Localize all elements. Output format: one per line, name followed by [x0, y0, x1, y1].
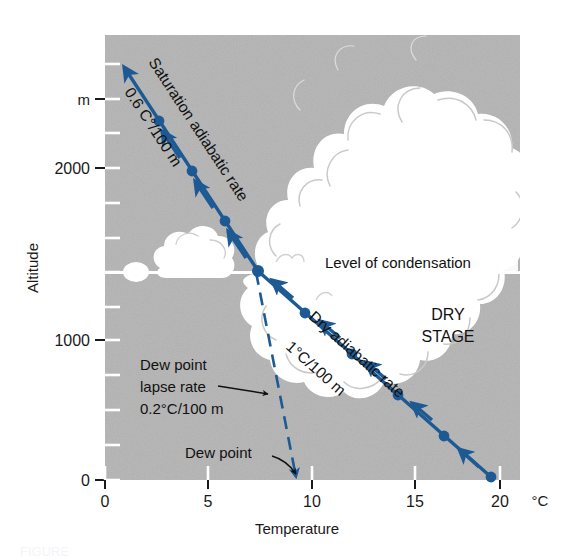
x-tick-label-5: 5: [204, 493, 213, 510]
data-point: [486, 472, 497, 483]
x-tick-label-0: 0: [101, 493, 110, 510]
dew-point-lapse-rate-label-line2: lapse rate: [140, 378, 206, 395]
adiabatic-lapse-rate-chart: Level of condensation 0 1000 200: [0, 0, 563, 560]
dew-point-lapse-rate-label-line1: Dew point: [140, 356, 208, 373]
y-axis-major-ticks: [95, 99, 105, 480]
data-point: [439, 431, 450, 442]
y-tick-label-1000: 1000: [54, 332, 90, 349]
level-of-condensation-label: Level of condensation: [325, 254, 471, 271]
data-point: [220, 216, 231, 227]
x-axis-title: Temperature: [255, 520, 339, 537]
y-axis-unit-label: m: [78, 91, 91, 108]
y-axis-title: Altitude: [24, 243, 41, 293]
dew-point-label: Dew point: [185, 444, 253, 461]
x-axis-major-ticks: [105, 480, 500, 489]
dew-point-lapse-rate-value: 0.2°C/100 m: [140, 400, 224, 417]
dry-stage-label-line1: DRY: [431, 306, 465, 323]
dry-stage-label-line2: STAGE: [421, 328, 474, 345]
y-tick-label-0: 0: [81, 472, 90, 489]
x-tick-label-15: 15: [406, 493, 424, 510]
figure-container: Level of condensation 0 1000 200: [0, 0, 563, 560]
x-axis-unit-label: °C: [532, 492, 549, 509]
y-tick-label-2000: 2000: [54, 160, 90, 177]
x-tick-label-20: 20: [491, 493, 509, 510]
x-tick-label-10: 10: [303, 493, 321, 510]
figure-caption-fragment: FIGURE: [20, 544, 69, 559]
data-point: [187, 166, 198, 177]
